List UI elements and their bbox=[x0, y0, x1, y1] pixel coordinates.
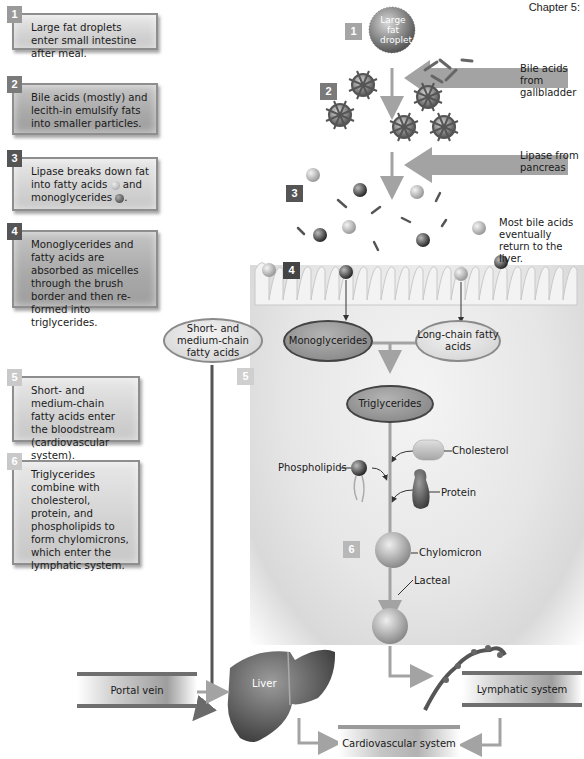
lymphatic-system: Lymphatic system bbox=[462, 671, 582, 707]
portal-vein-label: Portal vein bbox=[110, 685, 163, 696]
lipase-label: Lipase from pancreas bbox=[520, 150, 580, 174]
bile-acids-label: Bile acids from gallbladder bbox=[520, 63, 580, 99]
phospholipids-label: Phospholipids bbox=[278, 462, 347, 474]
cardiovascular-system: Cardiovascular system bbox=[338, 725, 460, 757]
triglycerides-node: Triglycerides bbox=[346, 385, 434, 423]
long-chain-fatty-acids-node: Long-chain fatty acids bbox=[415, 320, 501, 362]
diagram-badge-2: 2 bbox=[320, 83, 337, 100]
fat-droplet-label: Large fat droplet bbox=[380, 15, 406, 45]
protein-shape bbox=[412, 469, 429, 509]
liver-shape bbox=[228, 650, 335, 742]
diagram-badge-5: 5 bbox=[237, 368, 254, 385]
diagram-badge-6: 6 bbox=[343, 541, 360, 558]
brush-border bbox=[255, 263, 577, 306]
short-chain-fatty-acids-node: Short- and medium-chain fatty acids bbox=[163, 318, 263, 363]
liver-label: Liver bbox=[252, 678, 277, 690]
lymphatic-system-label: Lymphatic system bbox=[477, 684, 568, 695]
protein-label: Protein bbox=[441, 487, 476, 499]
phospholipid-shape bbox=[351, 460, 367, 476]
diagram-badge-1: 1 bbox=[345, 23, 362, 40]
monoglycerides-node: Monoglycerides bbox=[283, 320, 373, 362]
diagram-badge-3: 3 bbox=[286, 185, 303, 202]
digestion-diagram bbox=[0, 0, 584, 759]
diagram-badge-4: 4 bbox=[283, 262, 300, 279]
lacteal-label: Lacteal bbox=[414, 575, 450, 587]
cholesterol-label: Cholesterol bbox=[452, 445, 508, 457]
chylomicron-label: Chylomicron bbox=[419, 547, 482, 559]
cholesterol-shape bbox=[413, 440, 444, 460]
bile-return-label: Most bile acids eventually return to the… bbox=[499, 217, 579, 265]
cardiovascular-system-label: Cardiovascular system bbox=[342, 738, 456, 749]
chylomicron-shape bbox=[375, 532, 411, 568]
lacteal-chylomicron bbox=[372, 608, 408, 644]
portal-vein: Portal vein bbox=[77, 672, 197, 708]
